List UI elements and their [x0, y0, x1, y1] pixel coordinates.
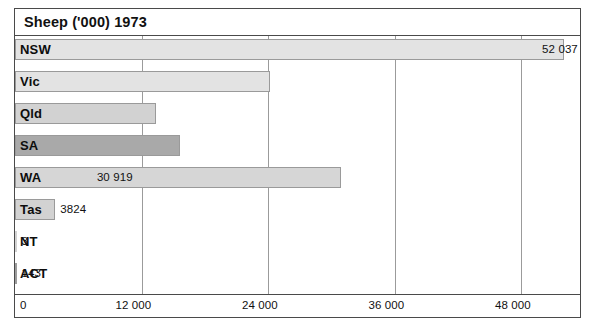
bar-row: ACT143 [15, 263, 580, 292]
bar-value-label: 24 186 [15, 75, 265, 87]
bar-row: Tas3824 [15, 199, 580, 228]
plot-area: NSW52 037Vic24 186Qld13 346SA15 651WA30 … [15, 36, 580, 296]
x-axis-tick-label: 36 000 [369, 299, 405, 311]
bar-value-label: 15 651 [15, 139, 175, 151]
bar-row: Vic24 186 [15, 71, 580, 100]
bar-value-label: 143 [22, 267, 42, 279]
bar-value-label: 52 037 [542, 43, 558, 55]
bar-category-label: NSW [20, 42, 51, 57]
bar-row: WA30 919 [15, 167, 580, 196]
bar-value-label: 13 346 [15, 107, 151, 119]
chart-title-band: Sheep ('000) 1973 [15, 9, 580, 36]
bar-category-label: WA [20, 170, 41, 185]
x-axis: 012 00024 00036 00048 000 [15, 294, 580, 317]
bar-value-label: 3824 [60, 203, 86, 215]
bar-row: SA15 651 [15, 135, 580, 164]
x-axis-tick-label: 12 000 [116, 299, 152, 311]
bar-row: Qld13 346 [15, 103, 580, 132]
bar-category-label: Tas [20, 202, 42, 217]
bar-nsw [15, 39, 564, 60]
x-axis-tick-label: 24 000 [242, 299, 278, 311]
x-axis-tick-label: 0 [20, 299, 27, 311]
bar-value-label: 30 919 [97, 171, 336, 183]
chart-title: Sheep ('000) 1973 [24, 14, 147, 30]
bar-row: NSW52 037 [15, 39, 580, 68]
chart-frame: Sheep ('000) 1973 NSW52 037Vic24 186Qld1… [14, 8, 581, 318]
bar-value-label: 3 [22, 235, 29, 247]
bar-act [15, 263, 17, 284]
chart-page: Sheep ('000) 1973 NSW52 037Vic24 186Qld1… [0, 0, 596, 334]
bar-row: NT3 [15, 231, 580, 260]
bar-nt [15, 231, 17, 252]
x-axis-tick-label: 48 000 [495, 299, 531, 311]
